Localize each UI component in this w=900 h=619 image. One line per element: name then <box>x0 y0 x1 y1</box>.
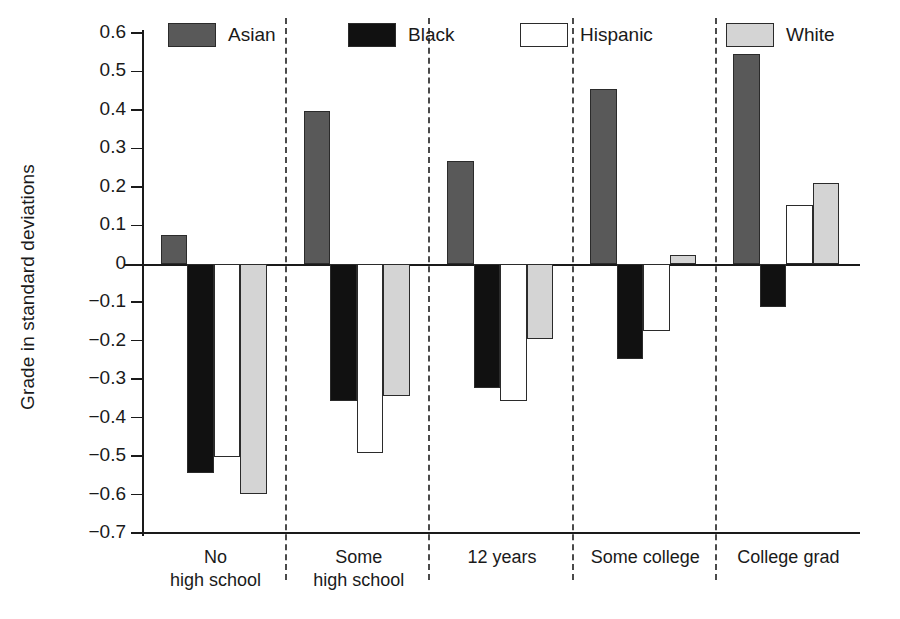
bar-black-4 <box>760 264 787 307</box>
legend-swatch-asian-icon <box>168 23 216 47</box>
bar-asian-0 <box>161 235 188 264</box>
bar-asian-1 <box>304 111 331 264</box>
legend-item-white[interactable]: White <box>726 20 835 50</box>
x-axis-category-label: Nohigh school <box>144 546 287 592</box>
bar-asian-4 <box>733 54 760 264</box>
y-axis-tick-label: −0.3 <box>6 367 126 389</box>
y-axis-tick-label: 0.2 <box>6 175 126 197</box>
bar-black-2 <box>474 264 501 388</box>
bar-white-4 <box>813 183 840 263</box>
bar-asian-3 <box>590 89 617 264</box>
legend-swatch-hispanic-icon <box>520 23 568 47</box>
bar-hispanic-3 <box>643 264 670 331</box>
bar-asian-2 <box>447 161 474 264</box>
legend-label: Asian <box>228 24 276 46</box>
y-axis-tick-label: 0.5 <box>6 59 126 81</box>
y-axis-line <box>142 30 144 536</box>
x-axis-category-label: Some college <box>574 546 717 569</box>
category-label-line: 12 years <box>430 546 573 569</box>
bar-black-0 <box>187 264 214 474</box>
y-axis-tick-mark <box>131 378 142 380</box>
y-axis-tick-mark <box>131 225 142 227</box>
x-axis-category-label: College grad <box>717 546 860 569</box>
y-axis-tick-label: 0 <box>6 252 126 274</box>
bar-white-2 <box>527 264 554 339</box>
y-axis-tick-label: −0.1 <box>6 290 126 312</box>
legend-label: White <box>786 24 835 46</box>
y-axis-tick-label: 0.1 <box>6 213 126 235</box>
bar-chart-figure: Grade in standard deviations 0.60.50.40.… <box>0 0 900 619</box>
group-divider <box>428 18 430 580</box>
bar-white-3 <box>670 255 697 264</box>
bar-white-0 <box>240 264 267 494</box>
bar-black-1 <box>330 264 357 401</box>
category-label-line: high school <box>287 569 430 592</box>
category-label-line: Some <box>287 546 430 569</box>
x-axis-category-label: Somehigh school <box>287 546 430 592</box>
y-axis-tick-label: −0.4 <box>6 406 126 428</box>
y-axis-tick-mark <box>131 71 142 73</box>
y-axis-tick-label: 0.4 <box>6 98 126 120</box>
legend-item-hispanic[interactable]: Hispanic <box>520 20 653 50</box>
group-divider <box>285 18 287 580</box>
bar-hispanic-1 <box>357 264 384 453</box>
y-axis-tick-mark <box>131 455 142 457</box>
y-axis-tick-mark <box>131 301 142 303</box>
group-divider <box>572 18 574 580</box>
x-axis-category-label: 12 years <box>430 546 573 569</box>
bar-hispanic-0 <box>214 264 241 457</box>
category-label-line: Some college <box>574 546 717 569</box>
y-axis-tick-label: 0.3 <box>6 136 126 158</box>
legend-item-black[interactable]: Black <box>348 20 454 50</box>
category-label-line: College grad <box>717 546 860 569</box>
x-axis-line <box>142 532 860 534</box>
legend-swatch-white-icon <box>726 23 774 47</box>
legend-item-asian[interactable]: Asian <box>168 20 276 50</box>
y-axis-tick-label: −0.5 <box>6 444 126 466</box>
legend-label: Hispanic <box>580 24 653 46</box>
bar-white-1 <box>383 264 410 397</box>
category-label-line: No <box>144 546 287 569</box>
bar-hispanic-2 <box>500 264 527 402</box>
y-axis-tick-mark <box>131 417 142 419</box>
y-axis-tick-label: −0.2 <box>6 329 126 351</box>
y-axis-tick-mark <box>131 186 142 188</box>
y-axis-tick-mark <box>131 32 142 34</box>
y-axis-tick-mark <box>131 148 142 150</box>
y-axis-tick-mark <box>131 532 142 534</box>
y-axis-tick-label: 0.6 <box>6 21 126 43</box>
y-axis-tick-mark <box>131 340 142 342</box>
y-axis-tick-labels: 0.60.50.40.30.20.10−0.1−0.2−0.3−0.4−0.5−… <box>0 0 126 560</box>
legend-label: Black <box>408 24 454 46</box>
bar-black-3 <box>617 264 644 359</box>
category-label-line: high school <box>144 569 287 592</box>
y-axis-tick-label: −0.6 <box>6 483 126 505</box>
y-axis-tick-mark <box>131 109 142 111</box>
y-axis-tick-label: −0.7 <box>6 521 126 543</box>
legend-swatch-black-icon <box>348 23 396 47</box>
y-axis-tick-mark <box>131 494 142 496</box>
bar-hispanic-4 <box>786 205 813 264</box>
group-divider <box>715 18 717 580</box>
